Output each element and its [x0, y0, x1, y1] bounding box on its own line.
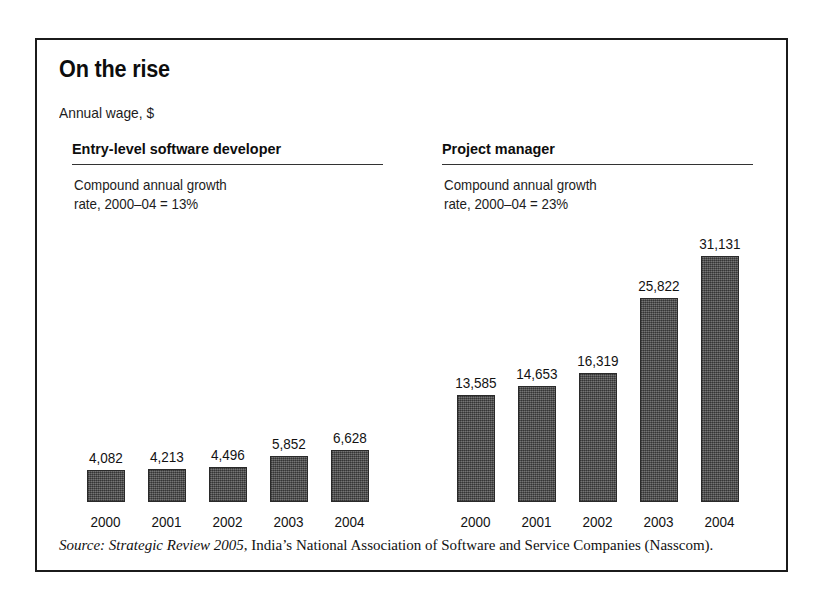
x-tick-label: 2002 [570, 513, 625, 530]
bar-slot: 14,653 [506, 202, 567, 502]
bar [148, 469, 186, 502]
x-axis-labels: 2000 2001 2002 2003 2004 [72, 513, 387, 530]
bar-value-label: 4,082 [89, 449, 123, 466]
chart-subtitle: Annual wage, $ [59, 104, 154, 121]
bar [209, 467, 247, 503]
bar-value-label: 4,213 [150, 448, 184, 465]
source-label: Source: [59, 537, 105, 553]
panel-heading: Project manager [442, 140, 555, 158]
source-publication: Strategic Review 2005 [109, 537, 244, 553]
bar-slot: 4,213 [136, 202, 197, 502]
bar-slot: 4,082 [75, 202, 136, 502]
bar [701, 256, 739, 502]
x-axis-labels: 2000 2001 2002 2003 2004 [442, 513, 757, 530]
x-tick-label: 2000 [78, 513, 133, 530]
bar [270, 456, 308, 502]
bar-slot: 4,496 [197, 202, 258, 502]
page-title: On the rise [59, 56, 170, 83]
bar-value-label: 13,585 [455, 374, 496, 391]
plot-area: 4,082 4,213 4,496 5,852 [72, 202, 387, 502]
x-tick-label: 2004 [692, 513, 747, 530]
bar-value-label: 16,319 [577, 352, 618, 369]
exhibit-frame: On the rise Annual wage, $ Entry-level s… [35, 38, 788, 572]
bar-slot: 5,852 [258, 202, 319, 502]
x-tick-label: 2003 [631, 513, 686, 530]
x-tick-label: 2001 [509, 513, 564, 530]
bar [518, 386, 556, 502]
source-rest: , India’s National Association of Softwa… [244, 537, 713, 553]
panel-heading: Entry-level software developer [72, 140, 281, 158]
bar-slot: 16,319 [567, 202, 628, 502]
bar-slot: 25,822 [628, 202, 689, 502]
bar [640, 298, 678, 502]
bar-slot: 31,131 [689, 202, 750, 502]
bar-value-label: 31,131 [699, 235, 740, 252]
bar-value-label: 25,822 [638, 277, 679, 294]
plot-area: 13,585 14,653 16,319 25,822 [442, 202, 757, 502]
source-note: Source: Strategic Review 2005, India’s N… [59, 537, 768, 554]
bar-slot: 6,628 [319, 202, 380, 502]
x-tick-label: 2001 [139, 513, 194, 530]
bar [579, 373, 617, 502]
bar [457, 395, 495, 502]
bar-group: 13,585 14,653 16,319 25,822 [442, 202, 757, 502]
x-tick-label: 2004 [322, 513, 377, 530]
panel-rule [442, 164, 753, 165]
bar [331, 450, 369, 502]
bar-value-label: 14,653 [516, 365, 557, 382]
panel-project-manager: Project manager Compound annual growth r… [442, 140, 757, 540]
bar-value-label: 6,628 [333, 429, 367, 446]
bar-value-label: 4,496 [211, 446, 245, 463]
x-tick-label: 2002 [200, 513, 255, 530]
bar-slot: 13,585 [445, 202, 506, 502]
x-tick-label: 2003 [261, 513, 316, 530]
panel-entry-level-software-developer: Entry-level software developer Compound … [72, 140, 387, 540]
bar-group: 4,082 4,213 4,496 5,852 [72, 202, 387, 502]
panel-rule [72, 164, 383, 165]
bar [87, 470, 125, 502]
bar-value-label: 5,852 [272, 435, 306, 452]
x-tick-label: 2000 [448, 513, 503, 530]
